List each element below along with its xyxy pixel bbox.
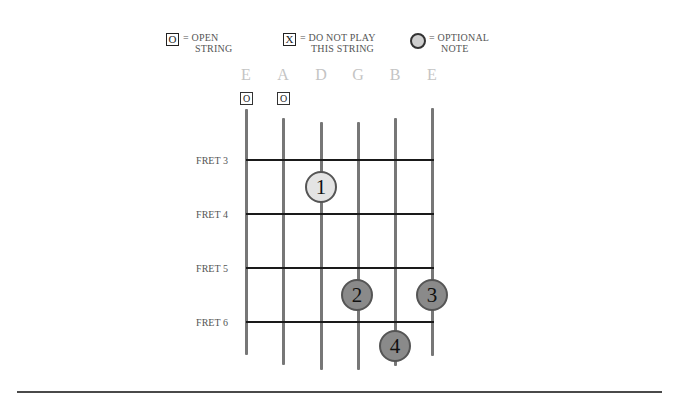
string-name-a: A xyxy=(273,66,293,84)
mute-string-legend-line1: = DO NOT PLAY xyxy=(300,32,376,43)
open-string-legend-line1: = OPEN xyxy=(183,32,218,43)
fret-label-4: FRET 4 xyxy=(182,209,242,220)
string-name-g: G xyxy=(348,66,368,84)
fret-line-5 xyxy=(246,267,434,269)
fret-line-6 xyxy=(246,321,434,323)
string-name-b: B xyxy=(385,66,405,84)
string-high-e xyxy=(431,108,434,356)
finger-1-optional-note: 1 xyxy=(305,171,337,203)
fret-line-3 xyxy=(246,159,434,161)
open-string-legend-line2: STRING xyxy=(195,43,232,54)
fret-label-6: FRET 6 xyxy=(182,317,242,328)
optional-note-legend-icon xyxy=(410,33,426,49)
open-string-legend-icon: O xyxy=(166,33,179,46)
string-a xyxy=(282,118,285,365)
string-name-high-e: E xyxy=(422,66,442,84)
string-name-d: D xyxy=(311,66,331,84)
fret-line-4 xyxy=(246,213,434,215)
fret-label-3: FRET 3 xyxy=(182,155,242,166)
optional-note-legend-line1: = OPTIONAL xyxy=(429,32,489,43)
string-low-e xyxy=(245,109,248,355)
open-string-marker-a: O xyxy=(277,92,290,105)
open-string-marker-low-e: O xyxy=(240,92,253,105)
bottom-divider xyxy=(17,391,662,393)
optional-note-legend-line2: NOTE xyxy=(441,43,468,54)
mute-string-legend-icon: X xyxy=(283,33,296,46)
mute-string-legend-line2: THIS STRING xyxy=(311,43,374,54)
finger-3-note: 3 xyxy=(416,279,448,311)
fret-label-5: FRET 5 xyxy=(182,263,242,274)
string-name-low-e: E xyxy=(236,66,256,84)
finger-4-note: 4 xyxy=(379,330,411,362)
finger-2-note: 2 xyxy=(341,279,373,311)
string-b xyxy=(394,118,397,366)
